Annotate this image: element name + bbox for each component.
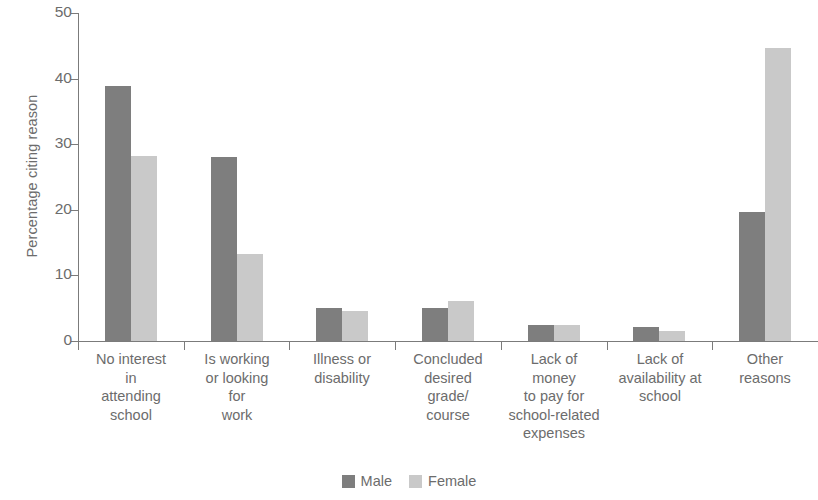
x-axis-label-line: school-related: [501, 406, 607, 425]
bar-female: [765, 48, 791, 341]
bars-layer: [78, 13, 818, 341]
bar-female: [237, 254, 263, 341]
x-axis-label: Concludeddesiredgrade/course: [395, 350, 501, 424]
x-axis-label: No interestinattendingschool: [78, 350, 184, 424]
legend-item-female[interactable]: Female: [409, 473, 476, 489]
bar-female: [131, 156, 157, 341]
legend-swatch-icon: [342, 475, 355, 488]
x-axis-label-line: grade/: [395, 387, 501, 406]
x-axis-label-line: Concluded: [395, 350, 501, 369]
bar-female: [448, 301, 474, 341]
x-tick-mark: [395, 342, 396, 350]
x-axis-label-line: Lack of: [501, 350, 607, 369]
x-axis-label: Otherreasons: [712, 350, 818, 387]
bar-male: [316, 308, 342, 341]
x-axis-label-line: attending: [78, 387, 184, 406]
x-tick-mark: [712, 342, 713, 350]
x-axis-label-line: school: [607, 387, 713, 406]
bar-male: [422, 308, 448, 341]
y-tick-mark: [71, 341, 78, 342]
x-axis-label-line: Is working: [184, 350, 290, 369]
x-axis-label-line: reasons: [712, 369, 818, 388]
x-axis-label-line: in: [78, 369, 184, 388]
x-axis-label-line: or looking: [184, 369, 290, 388]
x-axis-label-line: to pay for: [501, 387, 607, 406]
x-axis-label-line: Lack of: [607, 350, 713, 369]
bar-male: [105, 86, 131, 341]
x-axis-label-line: disability: [289, 369, 395, 388]
x-tick-mark: [289, 342, 290, 350]
y-tick-mark: [71, 79, 78, 80]
x-tick-mark: [78, 342, 79, 350]
x-axis-label-line: desired: [395, 369, 501, 388]
bar-male: [211, 157, 237, 341]
x-axis-label-line: school: [78, 406, 184, 425]
bar-male: [739, 212, 765, 341]
y-axis-title: Percentage citing reason: [24, 56, 40, 296]
x-tick-mark: [501, 342, 502, 350]
bar-chart: Percentage citing reason 01020304050 No …: [0, 0, 818, 500]
x-axis-label-line: course: [395, 406, 501, 425]
x-axis-label-line: No interest: [78, 350, 184, 369]
bar-male: [528, 325, 554, 341]
y-tick-label: 0: [63, 331, 72, 349]
y-tick-label: 10: [55, 265, 72, 283]
x-axis-label: Is workingor lookingforwork: [184, 350, 290, 424]
chart-legend: MaleFemale: [0, 473, 818, 489]
y-tick-label: 20: [55, 200, 72, 218]
x-axis-label: Lack ofavailability atschool: [607, 350, 713, 406]
y-tick-mark: [71, 210, 78, 211]
legend-label: Male: [361, 473, 392, 489]
x-axis-label-line: for: [184, 387, 290, 406]
x-axis-label: Lack ofmoneyto pay forschool-relatedexpe…: [501, 350, 607, 443]
x-axis-label-line: Other: [712, 350, 818, 369]
bar-female: [554, 325, 580, 341]
x-tick-mark: [607, 342, 608, 350]
x-axis-line: [78, 341, 818, 342]
legend-swatch-icon: [409, 475, 422, 488]
x-axis-labels: No interestinattendingschoolIs workingor…: [78, 350, 818, 460]
x-axis-label: Illness ordisability: [289, 350, 395, 387]
y-tick-mark: [71, 13, 78, 14]
x-axis-label-line: work: [184, 406, 290, 425]
legend-item-male[interactable]: Male: [342, 473, 392, 489]
x-axis-label-line: availability at: [607, 369, 713, 388]
x-axis-label-line: Illness or: [289, 350, 395, 369]
x-tick-mark: [184, 342, 185, 350]
y-tick-label: 50: [55, 3, 72, 21]
bar-male: [633, 327, 659, 341]
x-axis-label-line: expenses: [501, 424, 607, 443]
bar-female: [659, 331, 685, 341]
plot-area: 01020304050: [78, 13, 818, 341]
y-tick-mark: [71, 144, 78, 145]
y-tick-label: 40: [55, 69, 72, 87]
bar-female: [342, 311, 368, 341]
legend-label: Female: [428, 473, 476, 489]
x-axis-label-line: money: [501, 369, 607, 388]
y-tick-label: 30: [55, 134, 72, 152]
y-tick-mark: [71, 275, 78, 276]
